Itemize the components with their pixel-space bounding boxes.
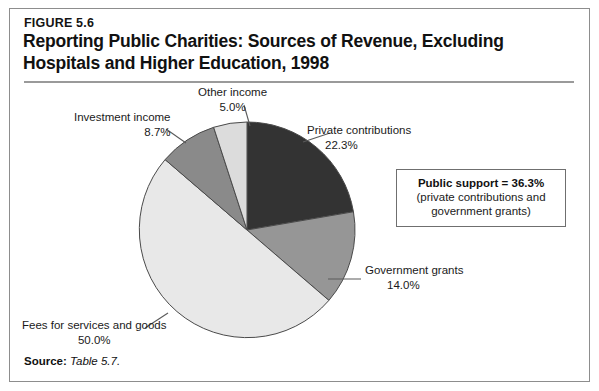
pie-chart: Other income 5.0% Investment income 8.7%… — [0, 0, 599, 391]
slice-label-fees-for-services: Fees for services and goods 50.0% — [22, 318, 166, 348]
slice-label-government-grants-pct: 14.0% — [365, 278, 463, 293]
source-note: Source: Table 5.7. — [24, 355, 120, 367]
slice-label-government-grants-name: Government grants — [365, 264, 463, 276]
slice-label-fees-for-services-pct: 50.0% — [22, 333, 166, 348]
public-support-callout-subtitle: (private contributions and government gr… — [403, 190, 559, 218]
source-label: Source: — [24, 355, 67, 367]
slice-label-private-contributions-name: Private contributions — [307, 124, 411, 136]
public-support-callout: Public support = 36.3% (private contribu… — [396, 169, 566, 227]
public-support-callout-title: Public support = 36.3% — [403, 177, 559, 189]
slice-label-government-grants: Government grants 14.0% — [365, 263, 463, 293]
source-value: Table 5.7. — [70, 355, 120, 367]
slice-label-investment-income-pct: 8.7% — [74, 125, 171, 140]
slice-label-investment-income-name: Investment income — [74, 111, 171, 123]
slice-label-other-income: Other income 5.0% — [198, 85, 267, 115]
pie-slice-group — [139, 122, 355, 338]
figure-container: FIGURE 5.6 Reporting Public Charities: S… — [0, 0, 599, 391]
slice-label-investment-income: Investment income 8.7% — [74, 110, 171, 140]
slice-label-other-income-pct: 5.0% — [198, 100, 267, 115]
slice-label-other-income-name: Other income — [198, 86, 267, 98]
slice-label-private-contributions-pct: 22.3% — [307, 138, 411, 153]
slice-label-private-contributions: Private contributions 22.3% — [307, 123, 411, 153]
slice-label-fees-for-services-name: Fees for services and goods — [22, 319, 166, 331]
